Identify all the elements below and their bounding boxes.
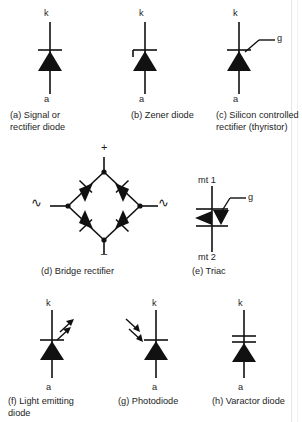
label-ac-left-d: ∿ <box>31 198 42 208</box>
scan-line-secondary <box>297 0 298 422</box>
label-anode-f: a <box>46 382 51 392</box>
caption-h: (h) Varactor diode <box>212 396 302 408</box>
label-mt2-e: mt 2 <box>198 252 216 262</box>
diode-symbols-sheet: k a (a) Signal or rectifier diode k a (b… <box>0 0 302 422</box>
scan-line <box>291 0 292 422</box>
symbol-zener-diode <box>125 22 165 94</box>
caption-d: (d) Bridge rectifier <box>41 266 171 278</box>
symbol-bridge-rectifier <box>44 155 164 255</box>
caption-a: (a) Signal or rectifier diode <box>10 110 106 133</box>
caption-g: (g) Photodiode <box>118 396 218 408</box>
label-cathode-g: k <box>152 298 157 308</box>
label-anode-h: a <box>238 382 243 392</box>
label-anode-b: a <box>139 94 144 104</box>
label-anode-a: a <box>44 94 49 104</box>
caption-f: (f) Light emitting diode <box>8 396 112 419</box>
label-mt1-e: mt 1 <box>198 175 216 185</box>
label-cathode-a: k <box>44 8 49 18</box>
label-cathode-c: k <box>233 8 238 18</box>
symbol-light-emitting-diode <box>32 310 92 378</box>
label-anode-g: a <box>152 382 157 392</box>
symbol-photodiode <box>120 310 180 378</box>
label-gate-e: g <box>248 192 253 202</box>
label-cathode-f: k <box>46 298 51 308</box>
caption-c: (c) Silicon controlled rectifier (thyris… <box>216 110 302 133</box>
label-cathode-h: k <box>238 298 243 308</box>
label-anode-c: a <box>233 94 238 104</box>
label-cathode-b: k <box>139 8 144 18</box>
caption-e: (e) Triac <box>192 266 292 278</box>
label-gate-c: g <box>277 33 282 43</box>
symbol-varactor-diode <box>224 310 264 378</box>
label-positive-d: + <box>101 142 107 152</box>
symbol-signal-rectifier-diode <box>30 22 70 94</box>
